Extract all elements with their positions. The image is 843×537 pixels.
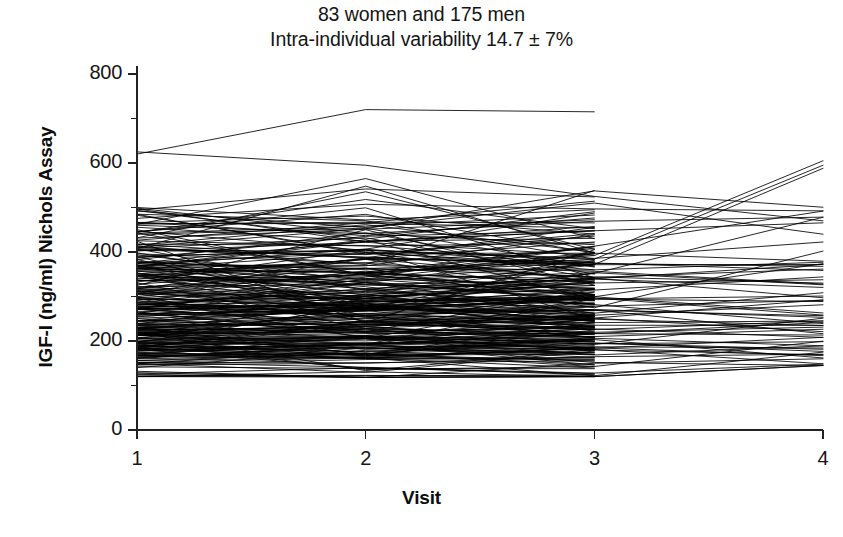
y-tick-label-400: 400 xyxy=(52,239,122,262)
spaghetti-lines xyxy=(137,110,823,378)
y-tick-label-0: 0 xyxy=(52,417,122,440)
y-tick-label-600: 600 xyxy=(52,150,122,173)
subject-high-2 xyxy=(137,152,823,221)
subject-low-2 xyxy=(137,364,823,374)
subject-high-1 xyxy=(137,110,594,155)
figure-root: 83 women and 175 men Intra-individual va… xyxy=(0,0,843,537)
x-tick-label-2: 2 xyxy=(346,447,386,470)
y-tick-label-200: 200 xyxy=(52,328,122,351)
x-tick-label-3: 3 xyxy=(574,447,614,470)
x-tick-label-1: 1 xyxy=(117,447,157,470)
x-tick-label-4: 4 xyxy=(803,447,843,470)
y-tick-label-800: 800 xyxy=(52,61,122,84)
